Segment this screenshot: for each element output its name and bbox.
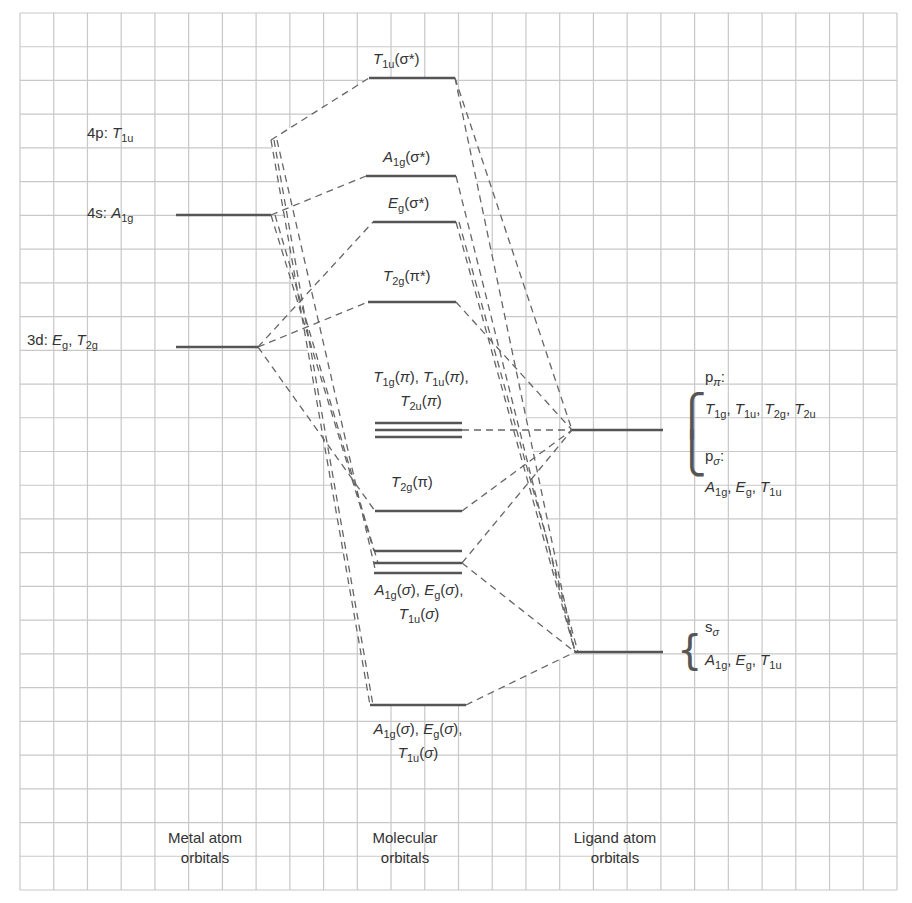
molecular-column-title: Molecular orbitals [355, 828, 455, 868]
ligand-column-title: Ligand atom orbitals [555, 828, 675, 868]
mo-t2g-pi-label: T2g(π) [391, 473, 433, 491]
ligand-p-pi-title: pπ: [705, 368, 725, 386]
ligand-p-brace-upper: ⎧ [677, 395, 707, 435]
mo-eg-sigma-star-label: Eg(σ*) [388, 194, 429, 212]
ligand-s-sigma-title: sσ [705, 618, 719, 636]
metal-column-title: Metal atom orbitals [150, 828, 260, 868]
ligand-p-sigma-title: pσ: [705, 447, 724, 465]
mo-pi-nonbonding-label: T1g(π), T1u(π), T2u(π) [346, 365, 496, 413]
mo-t1u-sigma-star-label: T1u(σ*) [373, 50, 420, 68]
ligand-s-brace: { [677, 630, 702, 670]
metal-4s-label: 4s: A1g [87, 204, 133, 222]
ligand-s-sigma-symmetries: A1g, Eg, T1u [705, 651, 782, 669]
mo-sigma-bonding-label: A1g(σ), Eg(σ), T1u(σ) [342, 717, 494, 765]
mo-diagram [0, 0, 912, 903]
ligand-p-pi-symmetries: T1g, T1u, T2g, T2u [705, 400, 816, 418]
ligand-p-brace-lower: ⎩ [677, 433, 707, 473]
metal-3d-label: 3d: Eg, T2g [27, 331, 98, 349]
ligand-p-sigma-symmetries: A1g, Eg, T1u [705, 478, 782, 496]
mo-sigma-nonbonding-label: A1g(σ), Eg(σ), T1u(σ) [343, 578, 495, 626]
mo-a1g-sigma-star-label: A1g(σ*) [383, 148, 430, 166]
mo-t2g-pi-star-label: T2g(π*) [383, 267, 431, 285]
metal-4p-label: 4p: T1u [87, 124, 133, 142]
